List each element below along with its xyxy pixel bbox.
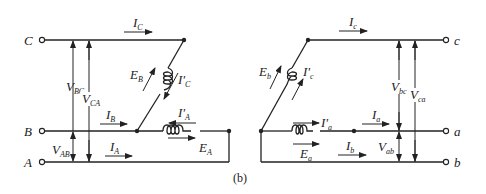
terminal-label-B: B [24,124,32,139]
terminal-label-a: a [454,124,461,139]
terminal-c [443,37,448,42]
node [182,38,186,42]
node [259,129,263,133]
winding-b-coil [286,68,297,86]
label-VAB: VAB [52,142,70,159]
terminal-label-C: C [24,33,33,48]
node [352,129,356,133]
winding-A-coil [163,125,191,134]
label-IA: IA [109,139,119,156]
winding-B-lead-bottom [137,94,160,131]
arrow-Eb [270,66,281,89]
figure-caption: (b) [233,171,247,185]
label-Vab: Vab [378,139,394,156]
left-circuit: C B A IC IB IA I'A EA EB I'C [23,15,231,170]
node [227,129,231,133]
arrow-Ic-prime [292,79,303,100]
label-Eb: Eb [258,64,271,81]
winding-a-coil [292,125,313,134]
label-Ib: Ib [345,138,354,155]
terminal-C [39,37,44,42]
label-EB: EB [129,67,143,84]
terminal-A [39,159,44,164]
label-Ic-prime: I'c [302,64,314,81]
winding-B-lead-top [168,40,184,68]
label-IC-prime: I'C [177,72,191,89]
terminal-label-c: c [454,33,460,48]
label-Ic: Ic [348,14,357,31]
terminal-b [443,159,448,164]
arrow-EB [143,68,155,91]
label-EA: EA [198,140,212,157]
terminal-B [39,128,44,133]
winding-b-lead-bottom [261,86,286,131]
label-IA-prime: I'A [177,105,190,122]
terminal-label-b: b [454,155,461,170]
terminal-a [443,128,448,133]
right-circuit: c a b Ic Ia Ib I'a Ea Eb I'c [258,14,461,170]
label-Ia-prime: I'a [320,115,332,132]
node [135,129,139,133]
label-IB: IB [105,107,115,124]
label-IC: IC [132,15,143,32]
label-Ia: Ia [371,107,380,124]
label-Ea: Ea [299,146,312,163]
node [306,38,310,42]
circuit-diagram: C B A IC IB IA I'A EA EB I'C [0,0,486,194]
terminal-label-A: A [23,155,32,170]
